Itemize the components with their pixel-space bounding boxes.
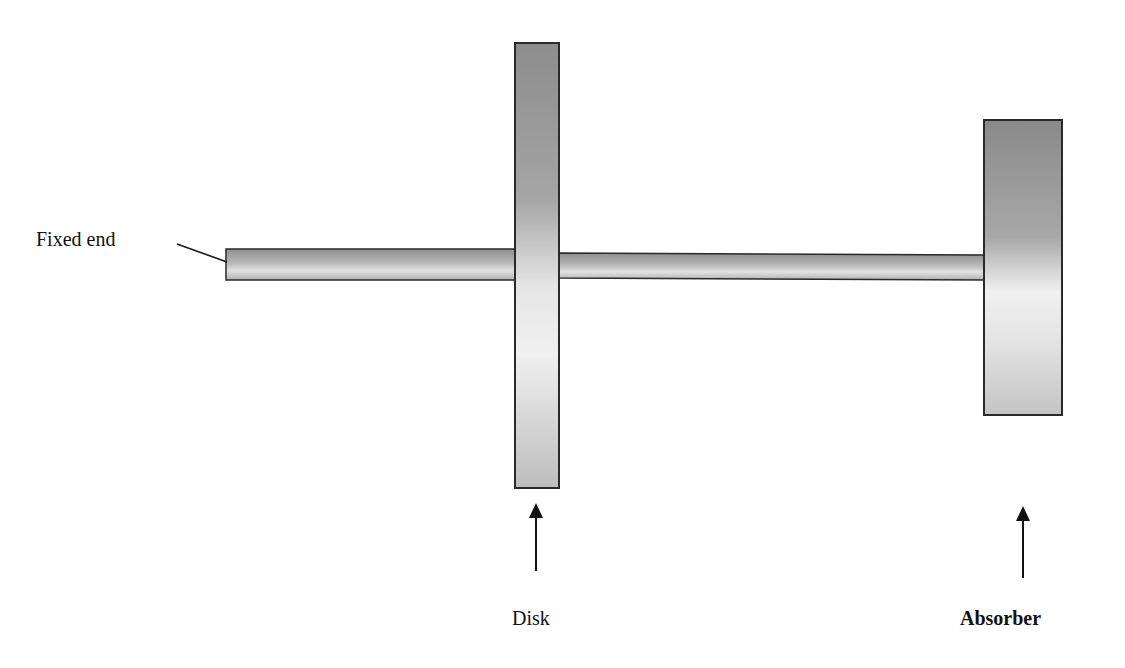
absorber-arrow-icon xyxy=(1016,506,1030,578)
absorber-shape xyxy=(984,120,1062,415)
diagram-svg xyxy=(0,0,1125,668)
absorber-label: Absorber xyxy=(960,607,1041,630)
fixed-end-leader-line xyxy=(177,244,227,262)
shaft-2 xyxy=(558,253,985,280)
fixed-end-label: Fixed end xyxy=(36,228,115,251)
disk-label: Disk xyxy=(512,607,550,630)
diagram-canvas: Fixed end Disk Absorber xyxy=(0,0,1125,668)
disk-shape xyxy=(515,43,559,488)
disk-arrow-icon xyxy=(529,503,543,571)
shaft-1 xyxy=(226,249,516,280)
